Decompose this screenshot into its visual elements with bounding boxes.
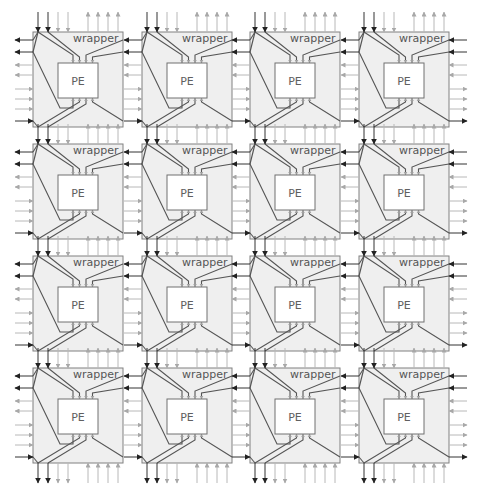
wrapper-label: wrapper xyxy=(290,32,336,45)
wrapper-tile-r4-c3: wrapperPE xyxy=(232,348,340,483)
pe-label: PE xyxy=(180,75,194,88)
pe-label: PE xyxy=(397,411,411,424)
wrapper-label: wrapper xyxy=(182,256,228,269)
wrapper-tile-r2-c1: wrapperPE xyxy=(15,124,123,239)
wrapper-label: wrapper xyxy=(182,368,228,381)
wrapper-tile-r2-c3: wrapperPE xyxy=(232,124,340,239)
wrapper-tile-r3-c3: wrapperPE xyxy=(232,236,340,351)
wrapper-tile-r4-c1: wrapperPE xyxy=(15,348,123,483)
wrapper-tile-r1-c1: wrapperPE xyxy=(15,12,123,127)
wrapper-tile-r4-c2: wrapperPE xyxy=(124,348,232,483)
pe-label: PE xyxy=(180,299,194,312)
wrapper-tile-r2-c2: wrapperPE xyxy=(124,124,232,239)
wrapper-tile-r1-c4: wrapperPE xyxy=(341,12,467,127)
wrapper-label: wrapper xyxy=(290,256,336,269)
wrapper-tile-r1-c3: wrapperPE xyxy=(232,12,340,127)
wrapper-tile-r1-c2: wrapperPE xyxy=(124,12,232,127)
wrapper-tile-r3-c2: wrapperPE xyxy=(124,236,232,351)
wrapper-tile-r3-c4: wrapperPE xyxy=(341,236,467,351)
wrapper-label: wrapper xyxy=(73,256,119,269)
wrapper-tile-r2-c4: wrapperPE xyxy=(341,124,467,239)
pe-label: PE xyxy=(71,75,85,88)
wrapper-tile-r4-c4: wrapperPE xyxy=(341,348,467,483)
wrapper-label: wrapper xyxy=(399,256,445,269)
pe-label: PE xyxy=(397,187,411,200)
pe-label: PE xyxy=(288,187,302,200)
pe-label: PE xyxy=(288,75,302,88)
wrapper-label: wrapper xyxy=(73,144,119,157)
pe-label: PE xyxy=(71,411,85,424)
wrapper-label: wrapper xyxy=(290,144,336,157)
pe-label: PE xyxy=(71,187,85,200)
wrapper-label: wrapper xyxy=(182,144,228,157)
wrapper-label: wrapper xyxy=(73,368,119,381)
pe-label: PE xyxy=(180,411,194,424)
wrapper-label: wrapper xyxy=(73,32,119,45)
pe-label: PE xyxy=(180,187,194,200)
pe-label: PE xyxy=(288,411,302,424)
wrapper-label: wrapper xyxy=(399,368,445,381)
pe-label: PE xyxy=(397,75,411,88)
tile-grid: wrapperPEwrapperPEwrapperPEwrapperPEwrap… xyxy=(15,12,467,483)
pe-label: PE xyxy=(71,299,85,312)
wrapper-tile-r3-c1: wrapperPE xyxy=(15,236,123,351)
wrapper-label: wrapper xyxy=(399,144,445,157)
wrapper-label: wrapper xyxy=(182,32,228,45)
pe-label: PE xyxy=(288,299,302,312)
pe-label: PE xyxy=(397,299,411,312)
pe-array-diagram: wrapperPEwrapperPEwrapperPEwrapperPEwrap… xyxy=(0,0,479,497)
wrapper-label: wrapper xyxy=(290,368,336,381)
wrapper-label: wrapper xyxy=(399,32,445,45)
